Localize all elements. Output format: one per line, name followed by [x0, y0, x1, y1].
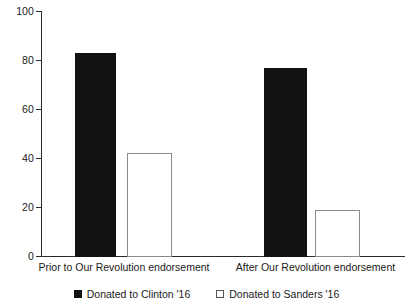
y-axis-line: [41, 11, 42, 257]
y-tick-mark-0: [36, 256, 41, 257]
y-tick-label-20: 20: [0, 202, 34, 212]
y-tick-mark-20: [36, 207, 41, 208]
bar-clinton-prior: [75, 53, 116, 257]
y-tick-label-80: 80: [0, 55, 34, 65]
y-tick-mark-100: [36, 11, 41, 12]
y-tick-label-0: 0: [0, 251, 34, 261]
chart-legend: Donated to Clinton '16 Donated to Sander…: [0, 284, 413, 304]
legend-label-clinton: Donated to Clinton '16: [87, 289, 191, 300]
x-category-label-after: After Our Revolution endorsement: [218, 261, 413, 274]
y-tick-label-60: 60: [0, 104, 34, 114]
y-tick-mark-80: [36, 60, 41, 61]
legend-item-clinton: Donated to Clinton '16: [74, 289, 191, 300]
plot-area: 100 80 60 40 20 0 Prior to Our Revolutio…: [0, 0, 413, 260]
legend-label-sanders: Donated to Sanders '16: [229, 289, 339, 300]
y-tick-label-100: 100: [0, 6, 34, 16]
bar-clinton-after: [264, 68, 307, 257]
bar-chart-figure: 100 80 60 40 20 0 Prior to Our Revolutio…: [0, 0, 413, 308]
bar-sanders-after: [315, 210, 360, 257]
legend-swatch-hollow-icon: [216, 290, 224, 298]
y-tick-label-40: 40: [0, 153, 34, 163]
x-category-label-prior: Prior to Our Revolution endorsement: [24, 261, 224, 274]
bar-sanders-prior: [127, 153, 172, 257]
y-tick-mark-40: [36, 158, 41, 159]
y-tick-mark-60: [36, 109, 41, 110]
legend-swatch-filled-icon: [74, 290, 82, 298]
legend-item-sanders: Donated to Sanders '16: [216, 289, 339, 300]
